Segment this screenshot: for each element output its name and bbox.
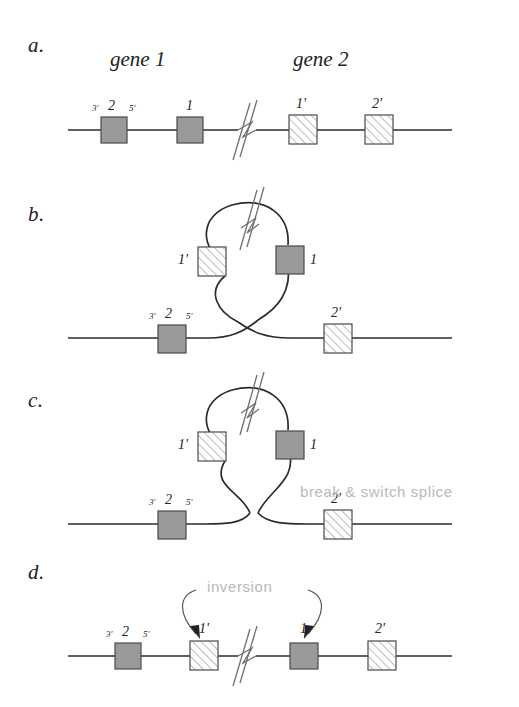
panel-c-box-1p-hatch [198, 432, 226, 461]
gene-title-2: gene 2 [293, 47, 348, 72]
panel-b-box-2p-hatch [324, 324, 352, 353]
panel-c-strand-to-right [258, 513, 330, 524]
panel-a-box-2p-hatch [365, 115, 393, 144]
panel-b-label-2: 2 [165, 306, 172, 322]
panel-c-box-2p-hatch [324, 510, 352, 539]
panel-b-box-1 [276, 246, 304, 274]
panel-a-box-1p-hatch [289, 115, 317, 144]
panel-b-label-2prime: 2' [331, 305, 341, 321]
panel-d-label-1: 1 [300, 621, 307, 637]
panel-a-label-5prime: 5' [129, 103, 135, 113]
panel-d-label-2prime: 2' [375, 621, 385, 637]
panel-b-label-5prime: 5' [186, 311, 192, 321]
panel-a-label-1prime: 1' [296, 96, 306, 112]
panel-c-label-1prime: 1' [178, 437, 188, 453]
panel-a-label-3prime: 3' [92, 103, 98, 113]
panel-a-box-1 [177, 117, 203, 143]
gene-title-1: gene 1 [110, 47, 165, 72]
panel-b-cross-strand-b [178, 320, 258, 338]
panel-letter-c: c. [28, 388, 44, 413]
panel-b-graphics [68, 187, 452, 353]
panel-c-strand-left-down [221, 461, 250, 513]
panel-c-label-2: 2 [165, 492, 172, 508]
panel-a-graphics [68, 100, 452, 160]
panel-c-box-2 [158, 511, 186, 539]
panel-b-label-1: 1 [310, 252, 317, 268]
panel-letter-a: a. [28, 33, 45, 58]
figure-recombination-inversion: a. b. c. d. gene 1 gene 2 3' 2 5' 1 1' 2… [0, 0, 519, 707]
panel-c-label-5prime: 5' [186, 497, 192, 507]
panel-d-box-1 [290, 643, 318, 669]
figure-canvas [0, 0, 519, 707]
panel-a-box-2 [101, 117, 127, 143]
panel-a-label-1: 1 [186, 98, 193, 114]
panel-b-box-2 [158, 325, 186, 353]
panel-c-graphics [68, 372, 452, 539]
panel-letter-d: d. [28, 560, 45, 585]
panel-c-label-3prime: 3' [149, 497, 155, 507]
panel-letter-b: b. [28, 202, 45, 227]
panel-d-label-3prime: 3' [106, 629, 112, 639]
panel-b-break-symbol [240, 187, 264, 250]
panel-d-label-2: 2 [122, 624, 129, 640]
panel-d-box-2 [115, 643, 141, 669]
panel-a-label-2prime: 2' [372, 96, 382, 112]
panel-b-label-1prime: 1' [178, 252, 188, 268]
panel-b-label-3prime: 3' [149, 311, 155, 321]
panel-c-strand-to-left [178, 513, 250, 524]
panel-d-label-1prime: 1' [199, 621, 209, 637]
panel-b-loop-left-lower [215, 276, 238, 322]
inversion-annotation: inversion [207, 578, 272, 595]
panel-d-label-5prime: 5' [143, 629, 149, 639]
panel-c-box-1 [276, 431, 304, 459]
panel-d-box-1p-hatch [190, 641, 218, 670]
panel-c-break-symbol [240, 372, 264, 435]
panel-b-box-1p-hatch [198, 247, 226, 276]
panel-d-box-2p-hatch [368, 641, 396, 670]
break-switch-splice-annotation: break & switch splice [300, 483, 453, 500]
panel-a-label-2: 2 [108, 98, 115, 114]
panel-c-label-1: 1 [310, 437, 317, 453]
